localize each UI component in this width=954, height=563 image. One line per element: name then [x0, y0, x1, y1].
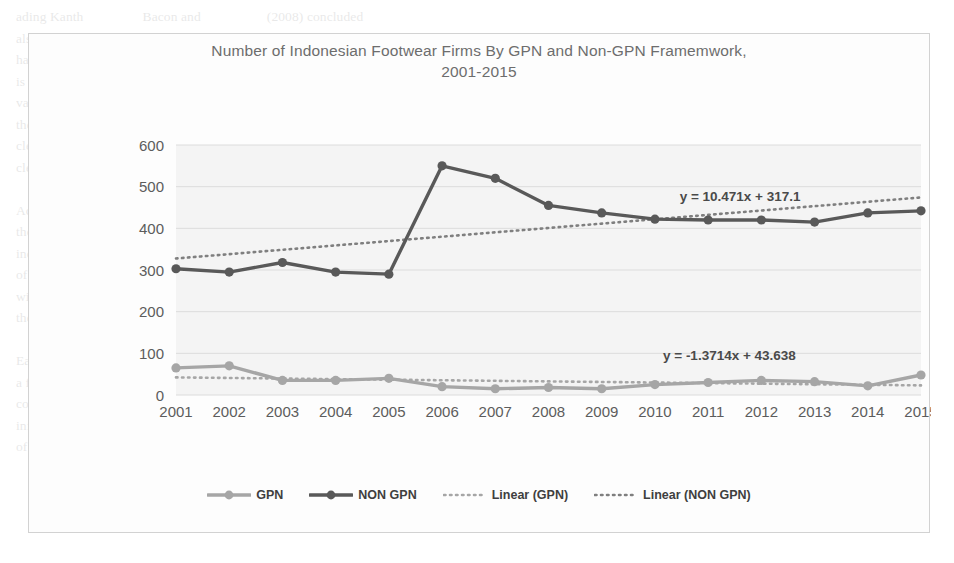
legend-swatch-icon: [443, 489, 487, 501]
series-marker-non_gpn[interactable]: [544, 201, 553, 210]
series-marker-non_gpn[interactable]: [171, 264, 180, 273]
series-marker-gpn[interactable]: [704, 378, 713, 387]
x-axis-label-2009: 2009: [585, 403, 618, 420]
series-marker-non_gpn[interactable]: [437, 161, 446, 170]
series-marker-gpn[interactable]: [916, 370, 925, 379]
legend-marker-icon: [327, 491, 336, 500]
chart-legend: GPNNON GPNLinear (GPN)Linear (NON GPN): [29, 488, 929, 502]
x-axis-label-2005: 2005: [372, 403, 405, 420]
equation-label-linear_gpn: y = -1.3714x + 43.638: [663, 348, 796, 363]
legend-item-gpn[interactable]: GPN: [207, 488, 283, 502]
y-axis-label-0: 0: [156, 387, 164, 404]
series-marker-gpn[interactable]: [384, 374, 393, 383]
y-axis-label-500: 500: [139, 178, 164, 195]
series-marker-non_gpn[interactable]: [225, 267, 234, 276]
x-axis-label-2007: 2007: [479, 403, 512, 420]
x-axis-label-2014: 2014: [851, 403, 884, 420]
legend-swatch-icon: [207, 489, 251, 501]
x-axis-label-2003: 2003: [266, 403, 299, 420]
chart-container: Number of Indonesian Footwear Firms By G…: [28, 33, 930, 533]
x-axis-label-2012: 2012: [745, 403, 778, 420]
y-axis-label-100: 100: [139, 345, 164, 362]
series-marker-gpn[interactable]: [225, 361, 234, 370]
x-axis-label-2015: 2015: [904, 403, 931, 420]
series-marker-gpn[interactable]: [597, 384, 606, 393]
series-marker-gpn[interactable]: [331, 376, 340, 385]
legend-label: Linear (GPN): [492, 488, 568, 502]
series-marker-gpn[interactable]: [544, 383, 553, 392]
series-marker-non_gpn[interactable]: [491, 174, 500, 183]
series-marker-non_gpn[interactable]: [331, 267, 340, 276]
series-marker-non_gpn[interactable]: [597, 208, 606, 217]
series-marker-non_gpn[interactable]: [863, 208, 872, 217]
series-marker-gpn[interactable]: [437, 382, 446, 391]
y-axis-label-200: 200: [139, 303, 164, 320]
series-marker-non_gpn[interactable]: [278, 258, 287, 267]
series-marker-non_gpn[interactable]: [810, 217, 819, 226]
legend-item-non-gpn[interactable]: NON GPN: [309, 488, 416, 502]
series-marker-non_gpn[interactable]: [704, 215, 713, 224]
legend-label: GPN: [256, 488, 283, 502]
legend-marker-icon: [225, 491, 234, 500]
series-marker-gpn[interactable]: [491, 384, 500, 393]
series-marker-non_gpn[interactable]: [384, 270, 393, 279]
y-axis-label-400: 400: [139, 220, 164, 237]
series-marker-gpn[interactable]: [650, 380, 659, 389]
legend-swatch-icon: [309, 489, 353, 501]
equation-label-linear_non_gpn: y = 10.471x + 317.1: [680, 189, 801, 204]
chart-plot-area: 0100200300400500600 20012002200320042005…: [29, 34, 931, 534]
legend-label: Linear (NON GPN): [643, 488, 751, 502]
legend-swatch-icon: [594, 489, 638, 501]
y-axis-label-300: 300: [139, 262, 164, 279]
x-axis-tick-labels: 2001200220032004200520062007200820092010…: [159, 403, 931, 420]
x-axis-label-2001: 2001: [159, 403, 192, 420]
x-axis-label-2002: 2002: [213, 403, 246, 420]
x-axis-label-2010: 2010: [638, 403, 671, 420]
y-axis-label-600: 600: [139, 137, 164, 154]
legend-item-linear-gpn[interactable]: Linear (GPN): [443, 488, 568, 502]
series-marker-gpn[interactable]: [278, 376, 287, 385]
series-marker-non_gpn[interactable]: [650, 215, 659, 224]
x-axis-label-2008: 2008: [532, 403, 565, 420]
series-marker-gpn[interactable]: [171, 363, 180, 372]
series-marker-gpn[interactable]: [863, 381, 872, 390]
legend-item-linear-non-gpn[interactable]: Linear (NON GPN): [594, 488, 751, 502]
series-marker-non_gpn[interactable]: [757, 215, 766, 224]
series-marker-gpn[interactable]: [810, 377, 819, 386]
series-marker-gpn[interactable]: [757, 376, 766, 385]
legend-label: NON GPN: [358, 488, 416, 502]
x-axis-label-2011: 2011: [692, 403, 724, 420]
x-axis-label-2006: 2006: [425, 403, 458, 420]
x-axis-label-2013: 2013: [798, 403, 831, 420]
x-axis-label-2004: 2004: [319, 403, 352, 420]
series-marker-non_gpn[interactable]: [916, 206, 925, 215]
y-axis-tick-labels: 0100200300400500600: [139, 137, 164, 404]
